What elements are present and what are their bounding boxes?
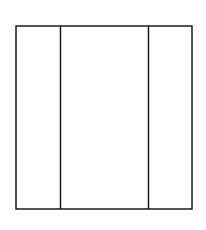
outer-frame: [16, 26, 192, 209]
diagram-canvas: [0, 0, 206, 230]
three-panel-diagram: [0, 0, 206, 230]
